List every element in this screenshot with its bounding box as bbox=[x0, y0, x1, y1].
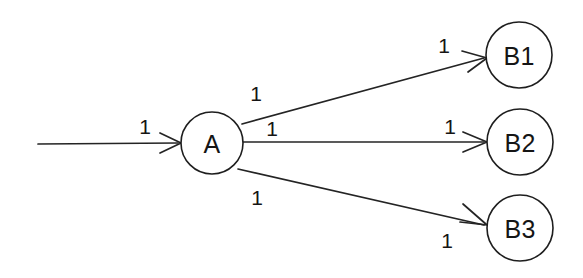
node-B1[interactable]: B1 bbox=[486, 22, 552, 88]
edge-label-source-to-A: 1 bbox=[139, 115, 151, 138]
edge-label-A-to-B2-near-target: 1 bbox=[444, 115, 456, 138]
node-label-B1: B1 bbox=[503, 42, 534, 70]
edge-A-to-B1[interactable]: 1 1 bbox=[242, 34, 487, 125]
edge-source-to-A[interactable]: 1 bbox=[38, 115, 181, 154]
node-B2[interactable]: B2 bbox=[487, 109, 553, 175]
edge-A-to-B3[interactable]: 1 1 bbox=[238, 169, 487, 252]
edge-label-A-to-B1-near-source: 1 bbox=[250, 82, 262, 105]
diagram-canvas: 1 1 1 1 1 1 1 A bbox=[0, 0, 583, 278]
edge-A-to-B2[interactable]: 1 1 bbox=[243, 115, 487, 153]
node-label-B3: B3 bbox=[504, 215, 535, 243]
node-label-A: A bbox=[204, 130, 221, 158]
edge-line-source-to-A bbox=[38, 143, 178, 144]
edge-label-A-to-B3-near-source: 1 bbox=[251, 186, 263, 209]
flow-graph-svg: 1 1 1 1 1 1 1 A bbox=[0, 0, 583, 278]
node-label-B2: B2 bbox=[504, 129, 535, 157]
edge-label-A-to-B2-near-source: 1 bbox=[266, 117, 278, 140]
arrowhead-into-B1 bbox=[462, 51, 487, 72]
node-A[interactable]: A bbox=[181, 112, 243, 174]
edge-label-A-to-B1-near-target: 1 bbox=[438, 34, 450, 57]
edge-line-A-to-B3 bbox=[238, 169, 484, 225]
edge-label-A-to-B3-near-target: 1 bbox=[441, 229, 453, 252]
node-B3[interactable]: B3 bbox=[487, 195, 553, 261]
